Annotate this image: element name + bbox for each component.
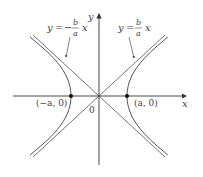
svg-text:b: b (73, 18, 78, 27)
svg-text:x: x (145, 22, 151, 33)
hyperbola-diagram: x y 0 (−a, 0) (a, 0) y = − b a x y = b a… (0, 0, 203, 177)
svg-text:b: b (136, 18, 141, 27)
vertex-left-point (69, 94, 73, 98)
asymptote-positive-pointer (129, 37, 134, 58)
asymptote-negative-label: y = − b a x (46, 18, 88, 38)
x-axis-label: x (182, 98, 188, 109)
svg-text:=: = (126, 22, 134, 33)
vertex-right-label: (a, 0) (134, 98, 158, 108)
vertex-right-point (125, 94, 129, 98)
vertex-left-label: (−a, 0) (36, 98, 67, 108)
asymptote-negative-pointer (66, 37, 70, 57)
origin-label: 0 (89, 105, 95, 115)
svg-text:x: x (82, 22, 88, 33)
svg-text:a: a (136, 29, 141, 38)
asymptote-positive-label: y = b a x (117, 18, 151, 38)
svg-text:−: − (64, 22, 72, 33)
svg-text:=: = (55, 22, 63, 33)
svg-text:a: a (73, 29, 78, 38)
svg-text:y: y (46, 22, 53, 33)
svg-text:y: y (117, 22, 124, 33)
y-axis-label: y (87, 11, 94, 22)
